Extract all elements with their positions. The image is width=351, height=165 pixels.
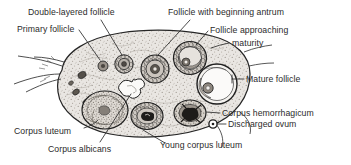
label-mature-follicle: Mature follicle [246, 74, 300, 84]
label-double-layered-follicle: Double-layered follicle [28, 7, 115, 17]
mature-follicle-body [197, 64, 237, 104]
label-young-corpus-luteum: Young corpus luteum [160, 140, 242, 150]
double-layered-follicle-body [115, 55, 133, 73]
antral-follicle-body [141, 55, 169, 83]
ovary-diagram-figure: Double-layered follicle Follicle with be… [0, 0, 351, 165]
corpus-hemorrhagicum-body [174, 100, 206, 126]
label-corpus-hemorrhagicum: Corpus hemorrhagicum [222, 108, 314, 118]
label-discharged-ovum: Discharged ovum [228, 119, 296, 129]
label-follicle-approaching: Follicle approaching [210, 25, 288, 35]
label-corpus-albicans: Corpus albicans [48, 144, 111, 154]
label-follicle-beginning-antrum: Follicle with beginning antrum [168, 7, 284, 17]
approaching-maturity-body [174, 42, 207, 75]
discharged-ovum-body[interactable] [209, 120, 217, 128]
hilum-attachment [14, 56, 64, 92]
label-primary-follicle: Primary follicle [17, 24, 74, 34]
label-corpus-luteum: Corpus luteum [14, 126, 71, 136]
label-maturity: maturity [232, 38, 263, 48]
young-corpus-luteum-body [131, 103, 163, 130]
